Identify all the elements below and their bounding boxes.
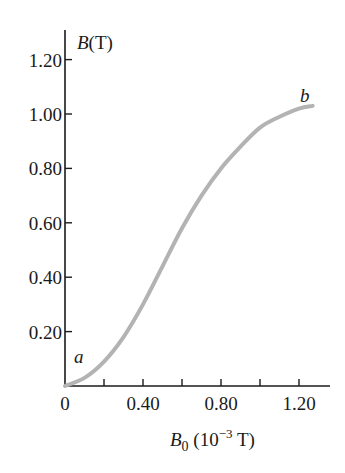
y-axis-label: B(T) <box>77 32 113 54</box>
x-axis-subscript: 0 <box>182 439 189 454</box>
x-axis-unit-open: (10 <box>189 429 219 451</box>
x-tick-label: 0 <box>60 393 70 414</box>
y-tick-label: 1.00 <box>29 104 62 125</box>
y-axis-symbol: B <box>77 32 89 53</box>
annotation-a: a <box>74 346 84 367</box>
x-axis-symbol: B <box>170 429 182 450</box>
x-axis-label: B0 (10−3 T) <box>170 426 255 454</box>
y-ticks <box>65 60 72 332</box>
y-tick-label: 0.20 <box>29 322 62 343</box>
x-ticks <box>104 379 299 386</box>
magnetization-chart: 00.400.801.20 0.200.400.600.801.001.20 B… <box>0 0 345 473</box>
y-tick-label: 0.60 <box>29 213 62 234</box>
x-tick-labels: 00.400.801.20 <box>60 393 315 414</box>
x-tick-label: 1.20 <box>282 393 315 414</box>
x-axis-exponent: −3 <box>219 426 233 441</box>
y-axis-unit: (T) <box>89 32 113 54</box>
x-tick-label: 0.40 <box>126 393 159 414</box>
annotation-b: b <box>300 85 310 106</box>
y-tick-label: 1.20 <box>29 50 62 71</box>
x-tick-label: 0.80 <box>204 393 237 414</box>
b-vs-b0-curve <box>65 106 313 386</box>
axes <box>64 30 330 387</box>
y-tick-labels: 0.200.400.600.801.001.20 <box>29 50 62 343</box>
y-tick-label: 0.40 <box>29 267 62 288</box>
x-axis-unit-close: T) <box>233 429 255 451</box>
y-tick-label: 0.80 <box>29 158 62 179</box>
